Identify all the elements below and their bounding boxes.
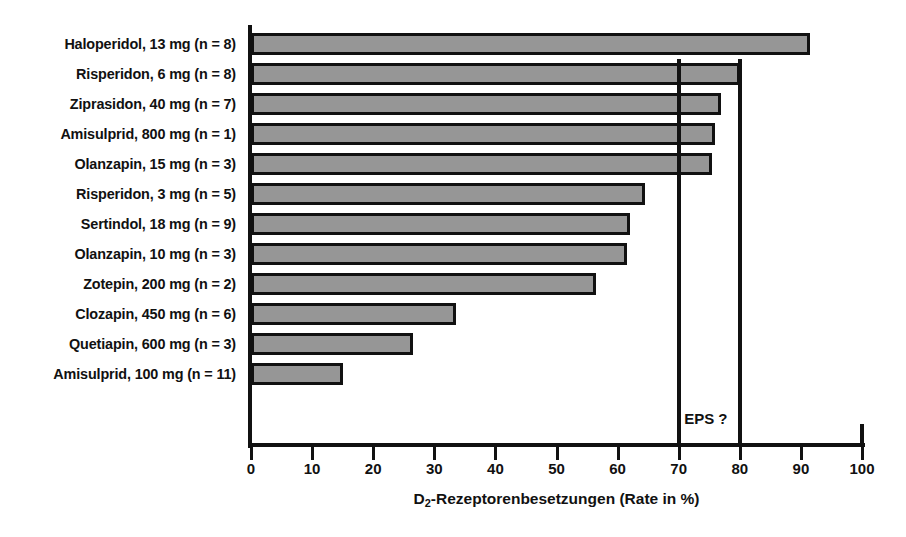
category-label: Risperidon, 3 mg (n = 5) xyxy=(76,187,236,201)
category-label: Risperidon, 6 mg (n = 8) xyxy=(76,67,236,81)
bar xyxy=(251,183,645,205)
x-axis-tick-label: 80 xyxy=(731,461,748,476)
bar xyxy=(251,123,715,145)
x-axis-tick-label: 40 xyxy=(487,461,504,476)
x-axis-tick xyxy=(800,447,803,460)
x-axis-tick-label: 20 xyxy=(365,461,382,476)
x-axis-tick-label: 30 xyxy=(426,461,443,476)
bar xyxy=(251,273,596,295)
x-axis-tick-label: 90 xyxy=(793,461,810,476)
bar xyxy=(251,153,712,175)
bar xyxy=(251,63,740,85)
reference-line xyxy=(677,59,681,447)
x-axis-tick xyxy=(861,447,864,460)
x-axis-tick xyxy=(678,447,681,460)
plot-area xyxy=(251,25,862,445)
category-label: Haloperidol, 13 mg (n = 8) xyxy=(64,37,236,51)
bar xyxy=(251,243,627,265)
category-label: Quetiapin, 600 mg (n = 3) xyxy=(69,337,236,351)
category-label: Clozapin, 450 mg (n = 6) xyxy=(75,307,236,321)
category-label: Sertindol, 18 mg (n = 9) xyxy=(81,217,236,231)
x-axis-tick-label: 10 xyxy=(304,461,321,476)
category-label: Olanzapin, 10 mg (n = 3) xyxy=(74,247,236,261)
x-axis-tick-label: 60 xyxy=(609,461,626,476)
x-axis-tick-label: 100 xyxy=(849,461,874,476)
chart-figure: Haloperidol, 13 mg (n = 8)Risperidon, 6 … xyxy=(0,0,906,537)
category-label: Zotepin, 200 mg (n = 2) xyxy=(83,277,236,291)
x-axis-tick xyxy=(617,447,620,460)
bar xyxy=(251,93,721,115)
bar xyxy=(251,303,456,325)
x-axis-tick-label: 0 xyxy=(247,461,255,476)
x-axis-tick xyxy=(250,447,253,460)
x-axis-tick xyxy=(433,447,436,460)
x-axis-tick xyxy=(311,447,314,460)
reference-line xyxy=(738,59,742,447)
x-axis-title-rest: -Rezeptorenbesetzungen (Rate in %) xyxy=(431,490,700,507)
x-axis-title: D2-Rezeptorenbesetzungen (Rate in %) xyxy=(251,490,862,508)
bar xyxy=(251,333,413,355)
category-label: Amisulprid, 100 mg (n = 11) xyxy=(53,367,236,381)
x-axis-tick xyxy=(372,447,375,460)
bar xyxy=(251,33,810,55)
eps-annotation: EPS ? xyxy=(684,411,727,426)
bar xyxy=(251,213,630,235)
x-axis-title-subscript: 2 xyxy=(425,497,431,509)
category-axis-labels: Haloperidol, 13 mg (n = 8)Risperidon, 6 … xyxy=(0,0,244,445)
bar xyxy=(251,363,343,385)
category-label: Amisulprid, 800 mg (n = 1) xyxy=(60,127,236,141)
x-axis-tick xyxy=(494,447,497,460)
category-label: Ziprasidon, 40 mg (n = 7) xyxy=(70,97,236,111)
x-axis-tick-label: 50 xyxy=(548,461,565,476)
x-axis-tick xyxy=(556,447,559,460)
y-axis-line xyxy=(248,25,252,448)
x-axis-title-base: D xyxy=(413,490,424,507)
x-axis-tick xyxy=(739,447,742,460)
x-axis-tick-label: 70 xyxy=(670,461,687,476)
x-axis-right-cap xyxy=(860,424,864,447)
category-label: Olanzapin, 15 mg (n = 3) xyxy=(74,157,236,171)
